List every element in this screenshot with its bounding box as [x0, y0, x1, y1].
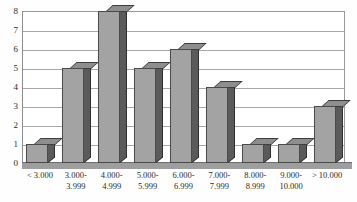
bar-front-face — [62, 68, 84, 163]
bar-front-face — [170, 49, 192, 163]
bar-column — [62, 68, 84, 163]
bar-front-face — [242, 144, 264, 163]
bar-column — [134, 68, 156, 163]
bar-column — [170, 49, 192, 163]
bar-front-face — [26, 144, 48, 163]
x-axis-tick-label-line: 10.000 — [267, 181, 315, 192]
bar-front-face — [278, 144, 300, 163]
bar-front-face — [134, 68, 156, 163]
bar-front-face — [314, 106, 336, 163]
bar-front-face — [98, 11, 120, 163]
bar-column — [278, 144, 300, 163]
x-axis-tick-label: > 10.000 — [303, 170, 351, 181]
bar-side-face — [336, 100, 343, 163]
bar-chart: 012345678 < 3.0003.000-3.9994.000-4.9995… — [0, 0, 357, 202]
bar-side-face — [192, 43, 199, 163]
bar-column — [242, 144, 264, 163]
bar-side-face — [156, 62, 163, 163]
bar-side-face — [228, 81, 235, 163]
x-axis-tick-labels: < 3.0003.000-3.9994.000-4.9995.000-5.999… — [0, 170, 357, 202]
bar-column — [26, 144, 48, 163]
bar-front-face — [206, 87, 228, 163]
bar-side-face — [84, 62, 91, 163]
bar-column — [98, 11, 120, 163]
bar-column — [206, 87, 228, 163]
x-axis-tick-label-line: > 10.000 — [303, 170, 351, 181]
bar-column — [314, 106, 336, 163]
bar-side-face — [120, 5, 127, 163]
